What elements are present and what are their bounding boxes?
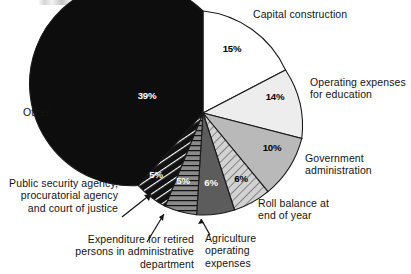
callout-label-public-security: Public security agency, procuratorial ag…	[2, 177, 118, 214]
slice-value-capital-construction: 15%	[223, 43, 242, 54]
callout-label-roll-balance: Roll balance at end of year	[258, 197, 329, 222]
callout-label-capital-construction: Capital construction	[253, 8, 347, 20]
slice-value-agriculture: 6%	[204, 177, 217, 188]
callout-label-other: Other	[23, 106, 50, 118]
slice-value-public-security: 5%	[149, 169, 162, 180]
slice-value-other: 39%	[138, 90, 157, 101]
pie-chart-figure: 15% 14% 10% 6% 6% 5% 5% 39% Capital cons…	[0, 0, 411, 274]
callout-label-agriculture: Agriculture operating expenses	[205, 232, 256, 269]
arrowhead-public-security	[144, 194, 151, 201]
slice-value-roll-balance: 6%	[234, 173, 247, 184]
callout-label-operating-expenses-education: Operating expenses for education	[310, 76, 406, 101]
slice-value-operating-expenses-education: 14%	[266, 91, 285, 102]
slice-value-government-administration: 10%	[263, 142, 282, 153]
scan-artifact-top-edge	[38, 0, 84, 5]
slice-value-retired-persons: 5%	[176, 175, 189, 186]
callout-label-government-administration: Government administration	[305, 152, 372, 177]
callout-label-retired-persons: Expenditure for retired persons in admin…	[48, 233, 194, 270]
